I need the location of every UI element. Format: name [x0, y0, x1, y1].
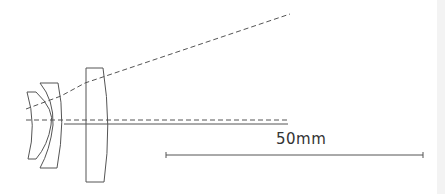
lens-3	[86, 68, 108, 182]
scale-bar-label: 50mm	[276, 130, 326, 148]
chief-ray	[26, 14, 290, 109]
lens-diagram	[0, 0, 445, 194]
